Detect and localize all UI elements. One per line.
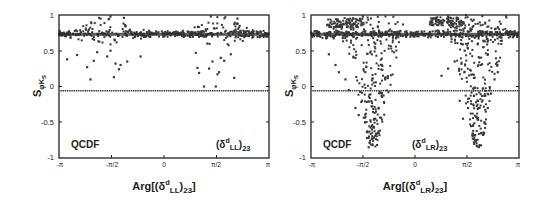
x-tick-label: -π (309, 161, 316, 168)
right-x-ticks: -π -π/2 0 π/2 π (309, 161, 521, 168)
y-tick-label: -1 (299, 153, 306, 162)
x-tick-label: -π (57, 161, 64, 168)
x-tick-label: -π/2 (106, 161, 118, 168)
left-qcdf-label: QCDF (71, 139, 99, 150)
y-tick-label: -0.5 (293, 118, 306, 127)
right-sm-band (311, 33, 519, 36)
right-panel: 1 0.5 0 -0.5 -1 -π -π/2 0 π/2 π SφKS Arg… (283, 11, 521, 195)
y-tick-label: -1 (47, 153, 54, 162)
left-scatter-points (58, 15, 270, 87)
left-x-ticks: -π -π/2 0 π/2 π (57, 161, 271, 168)
y-tick-label: 0.5 (296, 47, 306, 56)
right-x-axis-label: Arg[(δdLR)23] (383, 178, 448, 195)
left-x-axis-label: Arg[(δdLL)23] (132, 178, 196, 195)
x-tick-label: π/2 (462, 161, 472, 168)
left-y-axis-label: SφKS (31, 75, 47, 97)
x-tick-label: π/2 (211, 161, 221, 168)
figure: 1 0.5 0 -0.5 -1 -π -π/2 0 π/2 π SφKS Arg… (0, 0, 543, 203)
y-tick-label: 0 (302, 82, 306, 91)
y-tick-label: 1 (302, 11, 306, 20)
left-sm-band (59, 33, 269, 36)
x-tick-label: π (266, 161, 271, 168)
right-dotted-line (312, 90, 518, 92)
x-tick-label: π (516, 161, 521, 168)
right-qcdf-label: QCDF (323, 139, 351, 150)
y-tick-label: 0 (50, 82, 54, 91)
left-panel: 1 0.5 0 -0.5 -1 -π -π/2 0 π/2 π SφKS Arg… (31, 11, 271, 195)
left-dotted-line (60, 90, 268, 92)
x-tick-label: 0 (413, 161, 417, 168)
right-y-axis-label: SφKS (283, 75, 299, 97)
left-delta-label: (δdLL)23 (216, 137, 251, 153)
x-tick-label: 0 (162, 161, 166, 168)
y-tick-label: 0.5 (44, 47, 54, 56)
right-delta-label: (δdLR)23 (412, 137, 447, 153)
y-tick-label: -0.5 (41, 118, 54, 127)
x-tick-label: -π/2 (357, 161, 369, 168)
y-tick-label: 1 (50, 11, 54, 20)
